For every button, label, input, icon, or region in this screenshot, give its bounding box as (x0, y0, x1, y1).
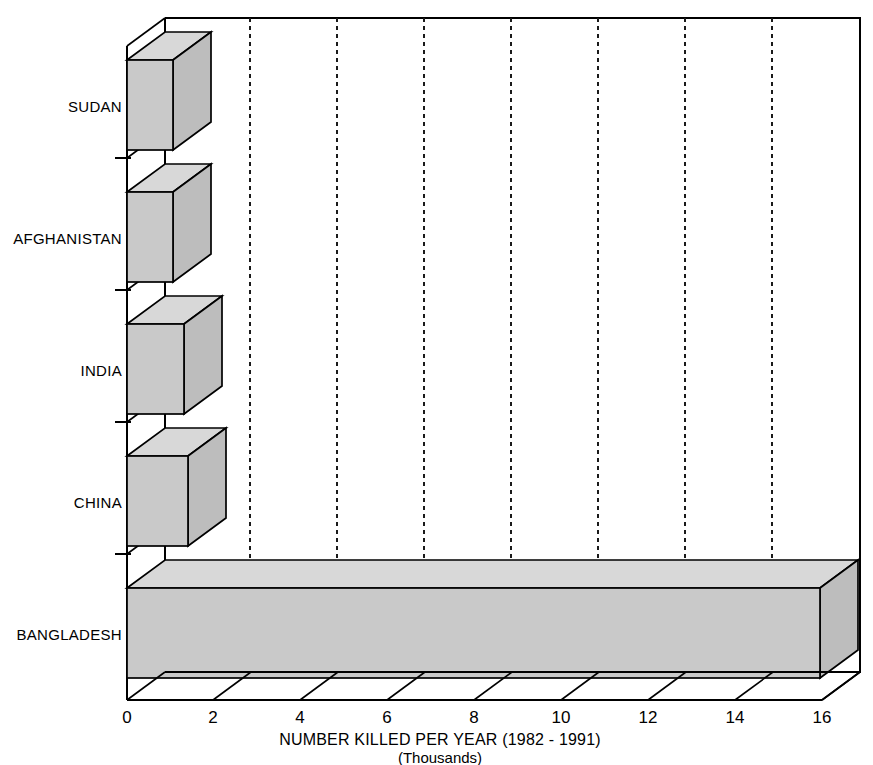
x-axis-title-group: NUMBER KILLED PER YEAR (1982 - 1991) (Th… (279, 731, 601, 765)
bar-afghanistan (127, 164, 211, 282)
x-tick-label: 6 (382, 708, 391, 727)
x-tick-labels: 0 2 4 6 8 10 12 14 16 (122, 708, 831, 727)
category-label-bangladesh: BANGLADESH (16, 626, 122, 643)
x-tick-label: 0 (122, 708, 131, 727)
category-labels: SUDAN AFGHANISTAN INDIA CHINA BANGLADESH (13, 98, 122, 643)
bar-bangladesh (127, 560, 858, 678)
x-tick-label: 4 (295, 708, 304, 727)
bar-sudan (127, 32, 211, 150)
category-label-sudan: SUDAN (68, 98, 122, 115)
x-axis-subtitle: (Thousands) (398, 749, 482, 765)
bar-india (127, 296, 222, 414)
chart-container: 0 2 4 6 8 10 12 14 16 SUDAN AFGHANISTAN … (0, 0, 873, 765)
x-tick-label: 8 (469, 708, 478, 727)
x-tick-label: 2 (208, 708, 217, 727)
x-tick-label: 12 (639, 708, 658, 727)
x-tick-label: 10 (552, 708, 571, 727)
category-label-india: INDIA (80, 362, 122, 379)
x-tick-label: 16 (813, 708, 832, 727)
bar-chart-3d: 0 2 4 6 8 10 12 14 16 SUDAN AFGHANISTAN … (0, 0, 873, 765)
x-axis-title: NUMBER KILLED PER YEAR (1982 - 1991) (279, 731, 601, 748)
bar-china (127, 428, 226, 546)
x-tick-label: 14 (726, 708, 745, 727)
category-label-afghanistan: AFGHANISTAN (13, 230, 122, 247)
category-label-china: CHINA (74, 494, 122, 511)
